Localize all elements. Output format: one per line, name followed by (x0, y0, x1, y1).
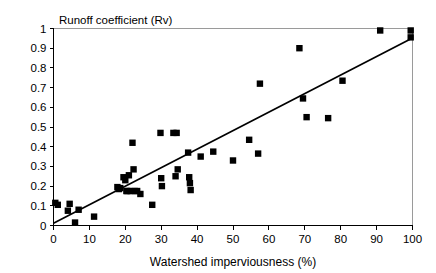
data-point (197, 153, 203, 159)
data-point (55, 202, 61, 208)
data-point (296, 45, 302, 51)
data-point (173, 130, 179, 136)
y-tick-label: 0.3 (31, 160, 47, 172)
data-point (65, 208, 71, 214)
data-point (157, 130, 163, 136)
data-point (175, 166, 181, 172)
trend-line (54, 38, 413, 223)
data-point (187, 187, 193, 193)
x-tick-label: 70 (298, 233, 311, 245)
x-axis-ticks (54, 226, 413, 230)
x-tick-label: 60 (263, 233, 276, 245)
scatter-chart: 00.10.20.30.40.50.60.70.80.91 0102030405… (0, 0, 436, 273)
data-point (72, 219, 78, 225)
data-point (137, 191, 143, 197)
y-tick-label: 0.9 (31, 42, 47, 54)
data-point (126, 172, 132, 178)
x-tick-label: 40 (191, 233, 204, 245)
data-point (325, 115, 331, 121)
x-tick-label: 100 (403, 233, 422, 245)
data-point (172, 173, 178, 179)
y-axis-ticks (50, 29, 54, 226)
x-axis-tick-labels: 0102030405060708090100 (50, 233, 422, 245)
x-tick-label: 50 (227, 233, 240, 245)
y-tick-label: 0.4 (31, 141, 48, 153)
y-tick-label: 0 (40, 220, 46, 232)
data-point (129, 140, 135, 146)
data-point (91, 213, 97, 219)
data-point (130, 166, 136, 172)
data-point (149, 202, 155, 208)
chart-canvas: 00.10.20.30.40.50.60.70.80.91 0102030405… (0, 0, 436, 273)
data-point (303, 114, 309, 120)
x-tick-label: 0 (50, 233, 56, 245)
data-point (187, 180, 193, 186)
y-tick-label: 0.7 (31, 82, 47, 94)
data-point (377, 27, 383, 33)
x-tick-label: 80 (334, 233, 347, 245)
y-tick-label: 1 (40, 23, 46, 35)
data-point (339, 78, 345, 84)
y-axis-tick-labels: 00.10.20.30.40.50.60.70.80.91 (31, 23, 48, 232)
x-tick-label: 20 (119, 233, 132, 245)
y-tick-label: 0.2 (31, 180, 47, 192)
data-point (66, 201, 72, 207)
y-axis-title: Runoff coefficient (Rv) (59, 14, 173, 26)
data-point (408, 27, 414, 33)
data-point (210, 148, 216, 154)
data-point (255, 150, 261, 156)
x-axis-title: Watershed imperviousness (%) (150, 255, 316, 269)
data-point (246, 137, 252, 143)
y-tick-label: 0.5 (31, 121, 47, 133)
data-point (230, 157, 236, 163)
data-point (158, 175, 164, 181)
x-tick-label: 10 (83, 233, 96, 245)
y-tick-label: 0.1 (31, 200, 47, 212)
data-point (257, 80, 263, 86)
x-tick-label: 30 (155, 233, 168, 245)
data-point (186, 174, 192, 180)
data-point (159, 183, 165, 189)
y-tick-label: 0.8 (31, 62, 47, 74)
y-tick-label: 0.6 (31, 101, 47, 113)
x-tick-label: 90 (370, 233, 383, 245)
